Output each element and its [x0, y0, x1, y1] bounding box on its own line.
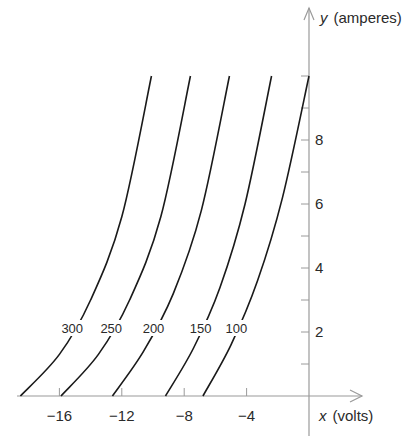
- curve-label-250: 250: [100, 321, 122, 336]
- labels: −16−12−8−42468x(volts)y(amperes)30025020…: [47, 9, 402, 424]
- chart-canvas: −16−12−8−42468x(volts)y(amperes)30025020…: [0, 0, 419, 444]
- y-tick-label: 6: [315, 195, 323, 212]
- x-axis-title: x(volts): [318, 407, 373, 424]
- axes: [17, 8, 362, 436]
- curve-label-100: 100: [225, 321, 247, 336]
- curve-label-150: 150: [190, 321, 212, 336]
- x-tick-label: −8: [176, 407, 193, 424]
- x-tick-label: −4: [238, 407, 255, 424]
- curve-label-200: 200: [143, 321, 165, 336]
- y-axis-title: y(amperes): [319, 9, 402, 26]
- curve-200: [112, 76, 229, 396]
- x-tick-label: −16: [47, 407, 72, 424]
- curve-100: [203, 76, 309, 396]
- y-tick-label: 4: [315, 259, 323, 276]
- x-tick-label: −12: [109, 407, 134, 424]
- y-tick-label: 8: [315, 131, 323, 148]
- curve-250: [61, 76, 190, 396]
- y-tick-label: 2: [315, 323, 323, 340]
- curve-300: [20, 76, 151, 396]
- curves: [20, 76, 309, 396]
- curve-label-300: 300: [61, 321, 83, 336]
